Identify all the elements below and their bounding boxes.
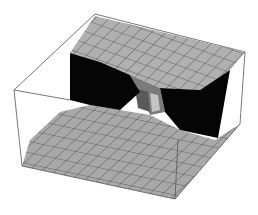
- box-edge-left-vertical: [14, 90, 22, 166]
- box-edge-left-top: [14, 90, 70, 100]
- box-edge-right-vertical: [240, 52, 245, 124]
- surface-plot: [0, 0, 258, 215]
